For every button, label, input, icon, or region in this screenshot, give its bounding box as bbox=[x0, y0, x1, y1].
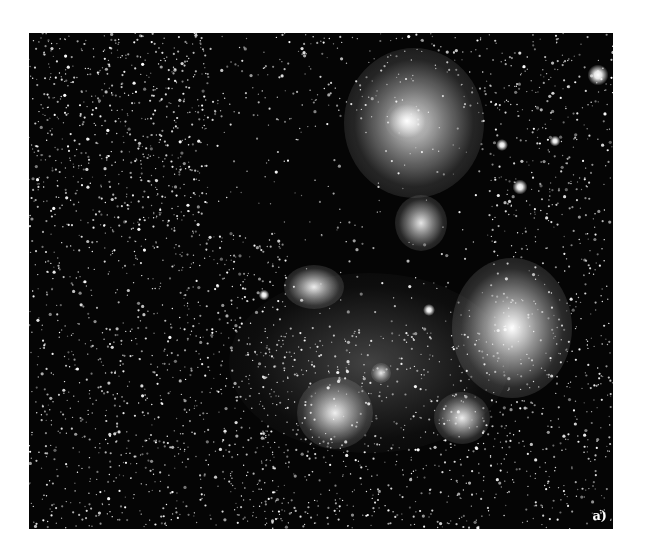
panel-label: a) bbox=[592, 508, 607, 523]
star-field bbox=[29, 33, 613, 529]
astronomical-photograph: a) bbox=[29, 33, 613, 529]
